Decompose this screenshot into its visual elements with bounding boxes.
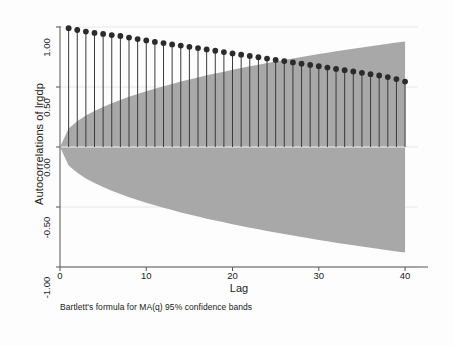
acf-data-point: [230, 51, 236, 57]
acf-data-point: [350, 69, 356, 75]
x-tick-label: 20: [227, 270, 238, 281]
acf-data-point: [83, 29, 89, 35]
acf-data-point: [74, 27, 80, 33]
acf-data-point: [325, 65, 331, 71]
acf-chart-figure: 1.000.500.00-0.50-1.00 Autocorrelations …: [0, 0, 453, 346]
y-axis-title: Autocorrelations of lrgdp: [33, 29, 45, 259]
acf-data-point: [273, 57, 279, 63]
acf-data-point: [333, 66, 339, 72]
acf-data-point: [247, 53, 253, 59]
x-tick-label: 10: [141, 270, 152, 281]
acf-data-point: [126, 35, 132, 41]
acf-data-point: [402, 79, 408, 85]
acf-data-point: [161, 40, 167, 46]
x-tick-label: 30: [314, 270, 325, 281]
acf-data-point: [394, 76, 400, 82]
x-tick-label: 0: [57, 270, 62, 281]
acf-data-point: [92, 30, 98, 36]
x-tick-label: 40: [400, 270, 411, 281]
acf-data-point: [135, 36, 141, 42]
acf-data-point: [100, 31, 106, 37]
acf-data-point: [281, 58, 287, 64]
acf-data-point: [143, 38, 149, 44]
x-axis-title: Lag: [60, 282, 418, 294]
acf-data-point: [376, 73, 382, 79]
acf-data-point: [264, 56, 270, 62]
acf-data-point: [195, 45, 201, 51]
acf-data-point: [204, 47, 210, 53]
acf-data-point: [299, 61, 305, 67]
acf-data-point: [307, 62, 313, 68]
acf-data-point: [169, 42, 175, 48]
acf-data-point: [178, 43, 184, 49]
y-tick-label: -1.00: [41, 266, 52, 310]
acf-data-point: [359, 70, 365, 76]
acf-plot-canvas: [0, 0, 453, 346]
acf-data-point: [117, 33, 123, 39]
acf-data-point: [152, 39, 158, 45]
acf-data-point: [187, 44, 193, 50]
acf-data-point: [385, 74, 391, 80]
acf-data-point: [212, 48, 218, 54]
acf-data-point: [316, 63, 322, 69]
acf-data-point: [238, 52, 244, 58]
acf-data-point: [109, 32, 115, 38]
acf-data-point: [256, 54, 262, 60]
acf-data-point: [368, 71, 374, 77]
acf-data-point: [290, 60, 296, 66]
chart-caption: Bartlett's formula for MA(q) 95% confide…: [60, 302, 252, 312]
acf-data-point: [342, 67, 348, 73]
acf-data-point: [66, 25, 72, 31]
acf-data-point: [221, 49, 227, 55]
